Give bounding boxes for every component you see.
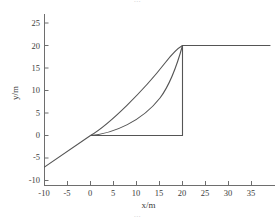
plot-area [44, 14, 275, 186]
x-tick-label: 20 [170, 189, 194, 198]
x-axis-label: x/m [141, 200, 155, 210]
data-curves [44, 46, 270, 168]
x-tick-label: 25 [193, 189, 217, 198]
y-tick-label: 15 [4, 64, 40, 73]
x-tick-label: -10 [32, 189, 56, 198]
upper-arc-curve [91, 46, 183, 136]
x-axis-label-wrapper: x/m [0, 200, 275, 210]
y-tick-label: 10 [4, 86, 40, 95]
straight-ramp-line [44, 136, 91, 168]
x-tick-label: 15 [147, 189, 171, 198]
x-tick-label: -5 [55, 189, 79, 198]
axis-lines [44, 14, 275, 186]
chart-figure: … y/m 25 20 15 10 5 0 -5 -10 [0, 0, 275, 222]
y-tick-label: 0 [4, 131, 40, 140]
x-tick-label: 10 [124, 189, 148, 198]
x-tick-label: 30 [216, 189, 240, 198]
x-axis-ticks [45, 181, 252, 186]
top-cropped-caption: … [0, 0, 275, 4]
y-tick-label: 5 [4, 109, 40, 118]
x-tick-label: 35 [239, 189, 263, 198]
x-tick-label: 0 [78, 189, 102, 198]
y-axis-ticks [45, 23, 49, 181]
bottom-cropped-caption: … [0, 211, 275, 221]
x-tick-label: 5 [101, 189, 125, 198]
y-tick-label: 20 [4, 42, 40, 51]
y-tick-label: 25 [4, 19, 40, 28]
y-tick-label: -5 [4, 153, 40, 162]
y-tick-label: -10 [4, 176, 40, 185]
